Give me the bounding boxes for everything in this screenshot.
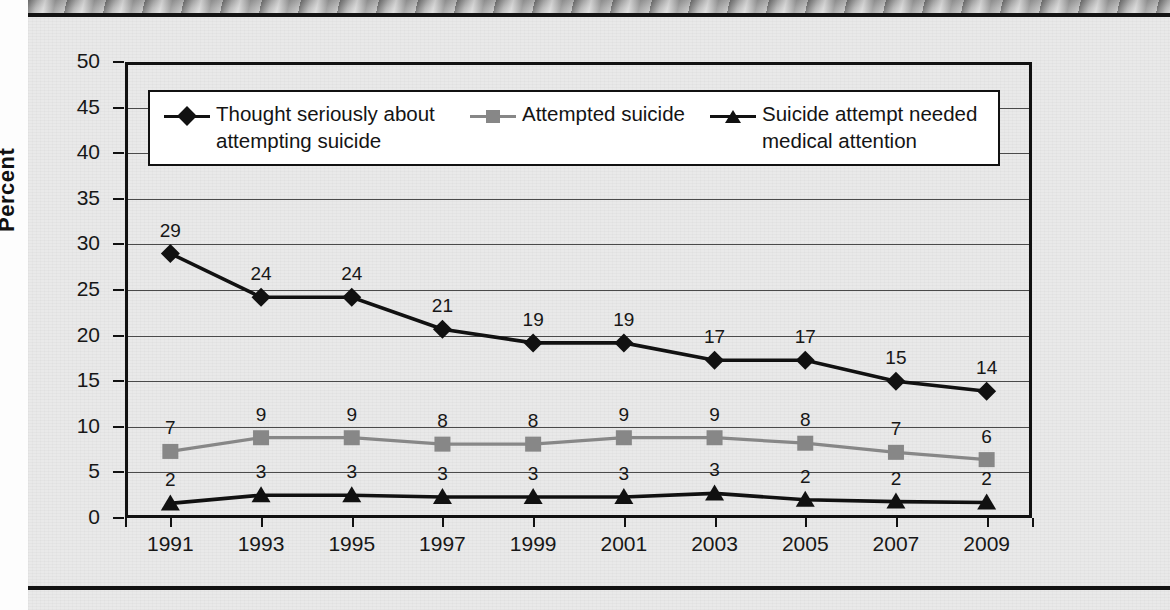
series-line-0 — [170, 254, 986, 392]
data-label: 29 — [140, 220, 200, 242]
data-label: 2 — [140, 469, 200, 491]
data-point-square — [616, 430, 632, 445]
data-label: 9 — [322, 404, 382, 426]
data-point-diamond — [886, 372, 905, 391]
data-point-square — [162, 444, 178, 459]
data-label: 2 — [957, 468, 1017, 490]
data-label: 2 — [866, 468, 926, 490]
data-point-square — [253, 430, 269, 445]
data-label: 9 — [594, 404, 654, 426]
data-label: 3 — [231, 461, 291, 483]
data-point-square — [707, 430, 723, 445]
data-label: 3 — [503, 463, 563, 485]
data-point-square — [888, 445, 904, 460]
data-label: 9 — [685, 404, 745, 426]
data-label: 3 — [594, 463, 654, 485]
data-label: 17 — [685, 326, 745, 348]
data-point-square — [979, 452, 995, 467]
data-point-diamond — [161, 244, 180, 263]
data-point-diamond — [342, 288, 361, 307]
data-point-diamond — [796, 351, 815, 370]
data-label: 14 — [957, 357, 1017, 379]
data-label: 8 — [412, 410, 472, 432]
data-label: 2 — [775, 466, 835, 488]
data-label: 7 — [866, 418, 926, 440]
data-point-diamond — [433, 320, 452, 339]
data-label: 15 — [866, 347, 926, 369]
series-line-1 — [170, 438, 986, 460]
data-label: 17 — [775, 326, 835, 348]
data-point-square — [797, 436, 813, 451]
data-label: 9 — [231, 404, 291, 426]
data-label: 3 — [685, 459, 745, 481]
data-point-square — [344, 430, 360, 445]
data-label: 3 — [322, 461, 382, 483]
data-label: 19 — [594, 309, 654, 331]
data-label: 3 — [412, 463, 472, 485]
data-label: 19 — [503, 309, 563, 331]
series-layer — [0, 0, 1170, 610]
data-label: 7 — [140, 417, 200, 439]
data-point-square — [525, 437, 541, 452]
series-line-2 — [170, 493, 986, 503]
data-label: 24 — [322, 263, 382, 285]
data-label: 21 — [412, 295, 472, 317]
data-label: 6 — [957, 426, 1017, 448]
data-point-diamond — [614, 333, 633, 352]
data-label: 24 — [231, 263, 291, 285]
data-point-diamond — [524, 333, 543, 352]
chart-page: Percent 50454035302520151050 19911993199… — [0, 0, 1170, 610]
data-point-diamond — [705, 351, 724, 370]
data-label: 8 — [503, 410, 563, 432]
data-point-diamond — [977, 382, 996, 401]
data-point-square — [434, 437, 450, 452]
data-point-diamond — [252, 288, 271, 307]
data-label: 8 — [775, 409, 835, 431]
